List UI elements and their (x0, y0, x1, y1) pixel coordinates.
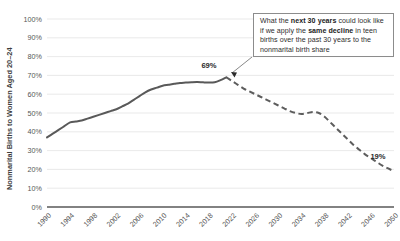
x-axis-tick-label: 2034 (290, 211, 308, 229)
y-axis-ticks: 0%10%20%30%40%50%60%70%80%90%100% (24, 15, 43, 212)
callout-emphasis-same-decline: same decline (308, 27, 353, 35)
y-axis-tick-label: 50% (28, 109, 43, 118)
x-axis-tick-label: 2046 (359, 211, 377, 229)
x-axis-tick-label: 2038 (313, 211, 331, 229)
y-axis-tick-label: 40% (28, 127, 43, 136)
callout-text: What the next 30 years could look like i… (260, 17, 388, 55)
x-axis-tick-label: 2042 (336, 211, 354, 229)
y-axis-tick-label: 60% (28, 90, 43, 99)
x-axis-tick-label: 2010 (151, 211, 169, 229)
x-axis-tick-label: 2050 (382, 211, 400, 229)
callout-emphasis-next-30-years: next 30 years (291, 17, 337, 25)
x-axis-tick-label: 2002 (105, 211, 123, 229)
y-axis-tick-label: 10% (28, 184, 43, 193)
callout-leader-line (231, 57, 252, 78)
series-actual-line (47, 77, 226, 137)
y-axis-tick-label: 100% (24, 15, 43, 24)
x-axis-tick-label: 2006 (128, 211, 146, 229)
y-axis-tick-label: 0% (32, 203, 43, 212)
x-axis-tick-label: 2030 (267, 211, 285, 229)
y-axis-tick-label: 80% (28, 52, 43, 61)
chart-container: 0%10%20%30%40%50%60%70%80%90%100% 199019… (0, 0, 400, 241)
x-axis-tick-label: 2022 (220, 211, 238, 229)
y-axis-title: Nonmarital Births to Women Aged 20–24 (5, 47, 14, 190)
x-axis-tick-label: 1990 (35, 211, 53, 229)
x-axis-tick-label: 1994 (58, 211, 76, 229)
series-projected-line (226, 77, 394, 171)
x-axis-tick-label: 2026 (243, 211, 261, 229)
x-axis-tick-label: 1998 (82, 211, 100, 229)
y-axis-tick-label: 70% (28, 71, 43, 80)
x-axis-tick-label: 2014 (174, 211, 192, 229)
y-axis-tick-label: 30% (28, 146, 43, 155)
endpoint-value-label: 19% (370, 152, 385, 161)
callout-line1-part3: could look (336, 17, 370, 25)
x-axis-ticks: 1990199419982002200620102014201820222026… (35, 211, 400, 229)
peak-value-label: 69% (201, 61, 216, 70)
x-axis-tick-label: 2018 (197, 211, 215, 229)
callout-box: What the next 30 years could look like i… (253, 13, 394, 57)
y-axis-tick-label: 90% (28, 33, 43, 42)
callout-line1-part1: What the (260, 17, 291, 25)
y-axis-tick-label: 20% (28, 165, 43, 174)
callout-line2-part3: in (353, 27, 361, 35)
